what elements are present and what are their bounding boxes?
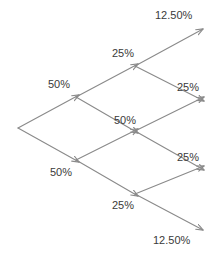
edge-down-down-to-end-lower: [135, 166, 204, 194]
probability-label-branch-middle: 50%: [114, 114, 136, 127]
probability-label-branch-dn-dn: 25%: [112, 199, 134, 212]
probability-label-branch-up-up: 25%: [112, 47, 134, 60]
probability-label-branch-up: 50%: [48, 78, 70, 91]
edge-down-to-down-down: [76, 160, 138, 196]
probability-label-terminal-dn-dn: 12.50%: [153, 234, 190, 247]
lattice-edges-svg: [0, 0, 216, 257]
probability-label-terminal-mid-dn: 25%: [177, 151, 199, 164]
edge-up-to-up-up: [76, 64, 138, 97]
probability-label-branch-down: 50%: [50, 166, 72, 179]
edge-down-to-middle: [76, 129, 138, 160]
edge-root-to-down: [18, 128, 79, 162]
edge-down-down-to-end-bot: [135, 194, 203, 230]
probability-label-terminal-up-up: 12.50%: [155, 9, 192, 22]
edge-up-up-to-end-top: [135, 29, 203, 66]
edge-root-to-up: [18, 95, 79, 128]
probability-lattice-diagram: 12.50% 25% 50% 25% 50% 25% 50% 25% 12.50…: [0, 0, 216, 257]
edge-middle-to-end-upper: [135, 97, 204, 131]
probability-label-terminal-mid-up: 25%: [177, 81, 199, 94]
